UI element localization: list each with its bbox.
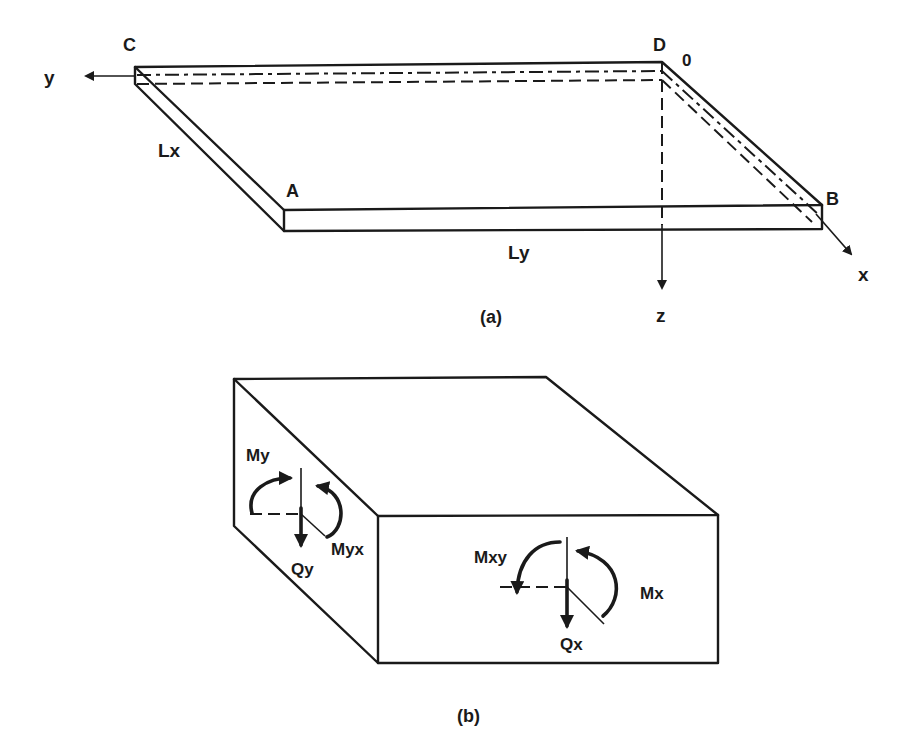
caption-a: (a) — [480, 307, 502, 327]
label-mx: Mx — [640, 584, 664, 603]
x-axis-arrow — [816, 214, 851, 254]
mid-plane-line-db — [662, 71, 818, 214]
element-side-face — [234, 379, 378, 663]
label-my: My — [246, 446, 270, 465]
element-front-face — [378, 515, 718, 663]
mid-plane-line-cd — [137, 71, 662, 75]
dimension-label-ly: Ly — [508, 242, 530, 263]
label-qx: Qx — [560, 635, 583, 654]
side-dashed-axis-diagonal — [301, 514, 325, 536]
dimension-label-lx: Lx — [158, 140, 181, 161]
element-top-face — [234, 377, 718, 516]
myx-twist-arrow — [318, 486, 341, 537]
my-moment-arrow — [251, 478, 290, 513]
axis-label-x: x — [858, 264, 869, 285]
panel-a-plate — [135, 62, 822, 231]
caption-b: (b) — [457, 706, 480, 726]
plate-diagram: C D 0 A B y x z Lx Ly (a) My Myx Qy Mxy — [0, 0, 898, 756]
mxy-twist-arrow — [517, 542, 560, 592]
corner-label-a: A — [286, 181, 299, 201]
corner-label-b: B — [826, 189, 839, 209]
front-face-forces: Mxy Mx Qx — [474, 537, 664, 654]
origin-label: 0 — [682, 51, 691, 70]
panel-a-axes — [86, 76, 851, 288]
label-mxy: Mxy — [474, 548, 508, 567]
hidden-bottom-line-db — [662, 80, 812, 222]
corner-label-d: D — [653, 35, 666, 55]
panel-a-labels: C D 0 A B y x z Lx Ly (a) — [44, 35, 869, 327]
label-myx: Myx — [331, 540, 365, 559]
front-dashed-axis-diagonal — [567, 587, 604, 624]
corner-label-c: C — [123, 35, 136, 55]
side-face-forces: My Myx Qy — [246, 446, 365, 579]
hidden-bottom-line-cd — [137, 80, 662, 84]
axis-label-y: y — [44, 67, 55, 88]
label-qy: Qy — [291, 560, 314, 579]
axis-label-z: z — [656, 305, 666, 326]
mx-moment-arrow — [578, 551, 616, 616]
